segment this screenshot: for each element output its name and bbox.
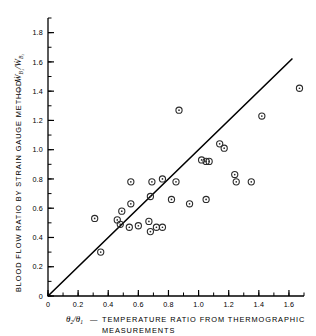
x-tick-label: 1.4 — [254, 300, 265, 309]
marker-center-dot — [201, 159, 203, 161]
marker-center-dot — [128, 226, 130, 228]
figure-container: 00.20.40.60.81.01.21.41.600.20.40.60.81.… — [0, 0, 316, 336]
marker-center-dot — [189, 203, 191, 205]
data-point — [186, 201, 192, 207]
x-tick-label: 1.0 — [193, 300, 204, 309]
data-point — [126, 224, 132, 230]
y-tick-label: 0.2 — [32, 262, 43, 271]
marker-center-dot — [150, 196, 152, 198]
marker-center-dot — [234, 174, 236, 176]
y-tick-label: 1.4 — [32, 87, 43, 96]
y-axis-title: BLOOD FLOW RATIO BY STRAIN GAUGE METHOD—… — [13, 54, 24, 292]
marker-center-dot — [119, 223, 121, 225]
marker-center-dot — [150, 231, 152, 233]
data-point — [98, 249, 104, 255]
marker-center-dot — [130, 203, 132, 205]
x-axis-title: θ2/θ1—TEMPERATURE RATIO FROM THERMOGRAPH… — [66, 314, 305, 335]
x-axis-dash: — — [90, 315, 98, 324]
marker-center-dot — [235, 181, 237, 183]
marker-center-dot — [94, 218, 96, 220]
data-point — [296, 85, 302, 91]
y-tick-label: 1.2 — [32, 116, 43, 125]
data-point — [149, 179, 155, 185]
y-tick-label: 1.0 — [32, 145, 43, 154]
data-point — [153, 224, 159, 230]
marker-center-dot — [219, 143, 221, 145]
data-point — [232, 171, 238, 177]
marker-center-dot — [121, 210, 123, 212]
x-axis-title-line1: TEMPERATURE RATIO FROM THERMOGRAPHIC — [102, 315, 305, 324]
x-tick-label: 1.2 — [223, 300, 234, 309]
data-point — [159, 224, 165, 230]
axes-group — [48, 18, 304, 296]
marker-center-dot — [162, 226, 164, 228]
y-tick-label: 1.8 — [32, 28, 43, 37]
data-point — [259, 113, 265, 119]
y-tick-label: 0.8 — [32, 175, 43, 184]
marker-center-dot — [223, 147, 225, 149]
data-point — [128, 179, 134, 185]
y-axis-dash: — — [14, 86, 23, 94]
data-point — [147, 229, 153, 235]
marker-center-dot — [162, 178, 164, 180]
data-point — [176, 107, 182, 113]
marker-center-dot — [100, 251, 102, 253]
data-point — [233, 179, 239, 185]
y-axis-symbol: ẆB₁/ẆB₂ — [13, 54, 24, 82]
data-point — [173, 179, 179, 185]
marker-center-dot — [261, 115, 263, 117]
x-tick-label: 0.6 — [133, 300, 144, 309]
data-point — [128, 201, 134, 207]
marker-center-dot — [138, 225, 140, 227]
data-point — [221, 145, 227, 151]
marker-center-dot — [205, 199, 207, 201]
data-point — [146, 218, 152, 224]
x-tick-label: 0.8 — [163, 300, 174, 309]
data-point — [168, 196, 174, 202]
data-point — [119, 208, 125, 214]
marker-center-dot — [130, 181, 132, 183]
fit-reference-line — [48, 59, 292, 296]
data-point — [203, 196, 209, 202]
marker-center-dot — [148, 221, 150, 223]
x-tick-label: 0.2 — [73, 300, 84, 309]
data-points-group — [92, 85, 303, 255]
marker-center-dot — [178, 109, 180, 111]
y-tick-label: 0.4 — [32, 233, 43, 242]
data-point — [159, 176, 165, 182]
marker-center-dot — [175, 181, 177, 183]
data-point — [135, 223, 141, 229]
y-tick-label: 0.6 — [32, 204, 43, 213]
data-point — [248, 179, 254, 185]
x-tick-label: 0 — [46, 300, 50, 309]
marker-center-dot — [171, 199, 173, 201]
marker-center-dot — [250, 181, 252, 183]
marker-center-dot — [156, 226, 158, 228]
data-point — [92, 215, 98, 221]
marker-center-dot — [116, 219, 118, 221]
marker-center-dot — [208, 161, 210, 163]
minor-ticks-group — [48, 18, 304, 296]
marker-center-dot — [299, 87, 301, 89]
data-point — [114, 217, 120, 223]
y-tick-label: 0 — [39, 292, 43, 301]
y-tick-label: 1.6 — [32, 58, 43, 67]
major-ticks-group: 00.20.40.60.81.01.21.41.600.20.40.60.81.… — [32, 28, 294, 309]
x-axis-title-line2: MEASUREMENTS — [102, 326, 175, 335]
x-axis-symbol: θ2/θ1 — [66, 314, 83, 325]
data-point — [147, 193, 153, 199]
y-axis-title-words: BLOOD FLOW RATIO BY STRAIN GAUGE METHOD — [14, 80, 23, 292]
x-tick-label: 0.4 — [103, 300, 114, 309]
scatter-plot: 00.20.40.60.81.01.21.41.600.20.40.60.81.… — [0, 0, 316, 336]
x-tick-label: 1.6 — [284, 300, 295, 309]
marker-center-dot — [151, 181, 153, 183]
